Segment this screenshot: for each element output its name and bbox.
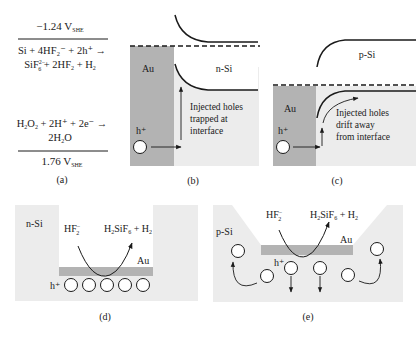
hole-circle [83, 279, 96, 292]
panel-a: −1.24 VSHE Si + 4HF₂⁻ + 2h⁺ → SiF2−6 + 2… [17, 20, 108, 186]
hole-circle [261, 270, 274, 283]
reaction-1-line-1: Si + 4HF₂⁻ + 2h⁺ → [18, 45, 106, 56]
au-label: Au [142, 63, 154, 74]
hole-circle [134, 141, 147, 154]
reaction-2-line-1: H2O2 + 2H⁺ + 2e⁻ → [17, 118, 107, 130]
hole-label: h⁺ [278, 125, 288, 136]
hole-label: h⁺ [274, 257, 284, 268]
au-label: Au [340, 234, 352, 245]
panel-b: Au n-Si h⁺ Injected holes trapped at int… [130, 15, 260, 187]
hole-circle [371, 243, 384, 256]
hole-circle [65, 279, 78, 292]
hole-circle [137, 279, 150, 292]
caption-b: (b) [187, 175, 199, 187]
product-label: H2SiF6 + H2 [104, 223, 152, 235]
p-si-label: p-Si [216, 226, 233, 237]
hole-circle [119, 279, 132, 292]
caption-e: (e) [302, 311, 313, 323]
au-particle [261, 245, 353, 255]
hole-circle [101, 279, 114, 292]
au-label: Au [137, 255, 149, 266]
hole-circle [285, 262, 298, 275]
caption-d: (d) [99, 311, 111, 323]
panel-c: p-Si Au h⁺ Injected holes drift away fro… [273, 40, 416, 187]
reactant-label: HF−2 [266, 209, 283, 222]
caption-c: (c) [331, 175, 342, 187]
panel-d: n-Si HF−2 H2SiF6 + H2 Au h⁺ (d) [15, 205, 198, 323]
au-particle [59, 267, 153, 276]
au-label: Au [284, 103, 296, 114]
hole-circle [232, 245, 245, 258]
hole-circle [342, 269, 355, 282]
conduction-band-curve [175, 15, 258, 42]
p-si-label: p-Si [359, 49, 376, 60]
bottom-potential: 1.76 VSHE [41, 155, 82, 168]
figure-canvas: −1.24 VSHE Si + 4HF₂⁻ + 2h⁺ → SiF2−6 + 2… [0, 0, 416, 339]
panel-e: p-Si HF−2 H2SiF6 + H2 Au h⁺ (e) [213, 205, 403, 323]
hole-label: h⁺ [136, 125, 146, 136]
n-si-label: n-Si [216, 63, 233, 74]
hole-circle [277, 141, 290, 154]
hole-circle [314, 262, 327, 275]
n-si-label: n-Si [26, 218, 43, 229]
reaction-1-line-2: SiF2−6 + 2HF2 + H2 [24, 59, 96, 72]
top-potential: −1.24 VSHE [36, 20, 84, 33]
hole-label: h⁺ [50, 280, 60, 291]
product-label: H2SiF6 + H2 [310, 209, 358, 221]
reaction-2-line-2: 2H2O [48, 132, 72, 144]
caption-a: (a) [56, 174, 67, 186]
